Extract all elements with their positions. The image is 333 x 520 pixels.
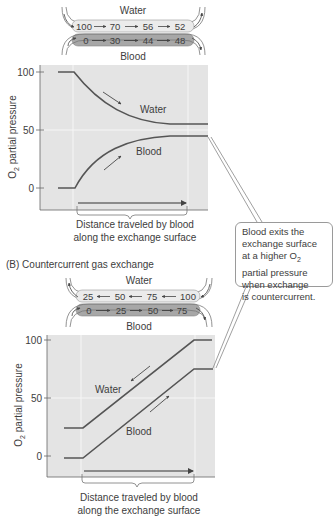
- blood-value: 30: [110, 35, 121, 46]
- blood-value: 0: [86, 305, 91, 316]
- blood-value: 44: [143, 35, 154, 46]
- panel-b-flow-diagram: Water Blood 25 50 75 100 0 25 50 75: [66, 275, 212, 332]
- callout-line: at a higher O2: [242, 250, 330, 266]
- blood-value: 48: [175, 35, 186, 46]
- panel-a-flow-diagram: Water Blood 100 70 56 52 0 30 44 48: [62, 5, 205, 62]
- x-axis-label-line2: along the exchange surface: [64, 504, 214, 517]
- callout-line: exchange surface: [242, 238, 330, 250]
- ytick-label: 0: [28, 183, 34, 194]
- x-axis-label-line1: Distance traveled by blood: [60, 218, 210, 231]
- blood-label: Blood: [120, 51, 146, 62]
- water-label: Water: [126, 275, 153, 286]
- callout-line: partial pressure: [242, 267, 330, 279]
- water-value: 56: [143, 21, 154, 32]
- plot-area: [47, 335, 215, 477]
- water-value: 75: [147, 291, 158, 302]
- x-axis-label-line1: Distance traveled by blood: [64, 491, 214, 504]
- panel-b-x-axis-caption: Distance traveled by blood along the exc…: [64, 491, 214, 517]
- ytick-label: 100: [17, 67, 34, 78]
- x-axis-label-line2: along the exchange surface: [60, 231, 210, 244]
- panel-b-chart: 100 50 0 O2 partial pressure Water Blood: [13, 335, 215, 487]
- panel-a-chart: 100 50 0 O2 partial pressure Water Blood: [7, 65, 208, 219]
- ytick-label: 50: [23, 125, 35, 136]
- callout-box: Blood exits the exchange surface at a hi…: [235, 222, 333, 287]
- y-axis-label: O2 partial pressure: [13, 363, 26, 447]
- callout-line: Blood exits the: [242, 226, 330, 238]
- y-axis-label: O2 partial pressure: [7, 95, 20, 179]
- water-value: 52: [175, 21, 186, 32]
- water-value: 50: [115, 291, 126, 302]
- callout-text: at a higher O: [242, 250, 297, 261]
- ytick-label: 0: [36, 451, 42, 462]
- blood-value: 75: [177, 305, 188, 316]
- water-line-label: Water: [95, 384, 122, 395]
- water-value: 70: [110, 21, 121, 32]
- panel-b-title: (B) Countercurrent gas exchange: [6, 259, 154, 270]
- blood-value: 0: [83, 35, 88, 46]
- water-value: 25: [83, 291, 94, 302]
- water-value: 100: [180, 291, 196, 302]
- blood-label: Blood: [126, 321, 152, 332]
- blood-curve-label: Blood: [136, 146, 162, 157]
- blood-value: 25: [116, 305, 127, 316]
- blood-line-label: Blood: [126, 426, 152, 437]
- ytick-label: 100: [25, 335, 42, 346]
- callout-line: is countercurrent.: [242, 291, 330, 303]
- callout-line: when exchange: [242, 279, 330, 291]
- blood-value: 50: [148, 305, 159, 316]
- callout-subscript: 2: [297, 256, 301, 263]
- water-curve-label: Water: [140, 104, 167, 115]
- ytick-label: 50: [31, 393, 43, 404]
- water-label: Water: [120, 5, 147, 16]
- panel-a-x-axis-caption: Distance traveled by blood along the exc…: [60, 218, 210, 244]
- water-value: 100: [76, 21, 92, 32]
